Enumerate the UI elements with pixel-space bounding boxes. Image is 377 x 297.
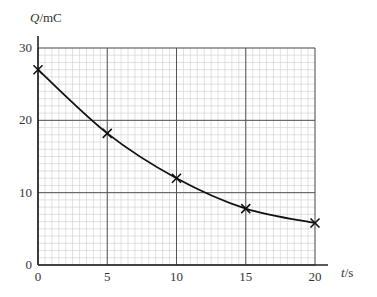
tick-labels: 051015200102030 — [19, 40, 322, 284]
y-tick-label: 30 — [19, 40, 32, 55]
y-tick-label: 20 — [19, 112, 32, 127]
x-tick-label: 20 — [309, 269, 322, 284]
y-axis-label: Q/mC — [30, 10, 62, 25]
y-tick-label: 0 — [26, 257, 33, 272]
x-tick-label: 5 — [104, 269, 111, 284]
x-tick-label: 10 — [170, 269, 183, 284]
y-tick-label: 10 — [19, 185, 32, 200]
x-tick-label: 0 — [35, 269, 42, 284]
charge-vs-time-chart: 051015200102030 Q/mC t/s — [0, 0, 377, 297]
x-axis-label: t/s — [341, 265, 353, 280]
x-tick-label: 15 — [239, 269, 252, 284]
axes — [38, 36, 328, 265]
